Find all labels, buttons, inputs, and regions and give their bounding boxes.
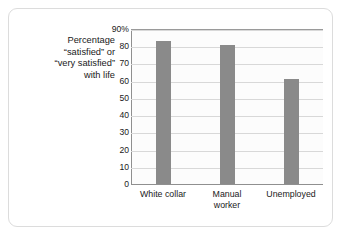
x-tick-label-manual-worker: Manualworker — [213, 189, 242, 211]
y-tick-label-70: 70 — [119, 58, 129, 68]
gridline-90 — [131, 30, 323, 31]
bar-white-collar — [156, 41, 171, 184]
x-tick-label-unemployed: Unemployed — [266, 189, 315, 200]
y-tick-label-0: 0 — [124, 179, 129, 189]
y-tick-label-20: 20 — [119, 145, 129, 155]
y-tick-label-10: 10 — [119, 162, 129, 172]
y-axis-title-line-3: “very satisfied” — [23, 58, 115, 70]
y-tick-label-30: 30 — [119, 127, 129, 137]
y-tick-label-40: 40 — [119, 110, 129, 120]
y-axis-title-line-4: with life — [23, 70, 115, 82]
x-tick-label-line: Unemployed — [266, 189, 315, 200]
chart-plot: 0102030405060708090% White collarManualw… — [131, 29, 323, 227]
bar-manual-worker — [220, 45, 235, 185]
plot-area — [131, 29, 323, 184]
x-tick-label-white-collar: White collar — [140, 189, 186, 200]
y-tick-label-60: 60 — [119, 76, 129, 86]
y-axis-title-line-2: “satisfied” or — [23, 47, 115, 59]
figure-card: Percentage “satisfied” or “very satisfie… — [8, 8, 333, 227]
y-axis-line — [131, 30, 132, 184]
y-tick-label-90: 90% — [112, 24, 129, 34]
y-axis-tick-labels: 0102030405060708090% — [107, 29, 129, 184]
y-axis-title-line-1: Percentage — [23, 35, 115, 47]
y-axis-title: Percentage “satisfied” or “very satisfie… — [23, 35, 115, 81]
y-tick-label-50: 50 — [119, 93, 129, 103]
x-axis-tick-labels: White collarManualworkerUnemployed — [131, 189, 323, 225]
bar-unemployed — [284, 79, 299, 184]
x-tick-label-line: White collar — [140, 189, 186, 200]
y-tick-label-80: 80 — [119, 41, 129, 51]
x-tick-label-line: Manual — [213, 189, 242, 200]
x-tick-label-line: worker — [213, 200, 242, 211]
